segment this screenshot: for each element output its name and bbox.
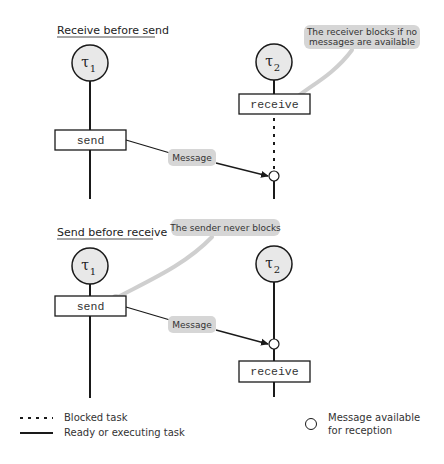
scenario-receive-before-send: Receive before send The receiver blocks … <box>55 24 420 199</box>
task2-index: 2 <box>274 62 280 73</box>
legend: Blocked task Ready or executing task Mes… <box>20 412 420 438</box>
legend-blocked-label: Blocked task <box>64 412 128 423</box>
legend-message-available-icon <box>306 419 317 430</box>
task2-symbol: τ <box>265 255 273 271</box>
task1-symbol: τ <box>81 257 89 273</box>
scenario-title: Send before receive <box>57 226 168 239</box>
legend-ready-label: Ready or executing task <box>64 427 185 438</box>
task2-receive-label: receive <box>250 365 298 378</box>
message-passing-diagram: Receive before send The receiver blocks … <box>0 0 444 464</box>
task1-index: 1 <box>90 266 96 277</box>
callout-text-line1: The receiver blocks if no <box>306 27 418 37</box>
task1-symbol: τ <box>81 54 89 70</box>
message-available-marker <box>269 171 279 181</box>
scenario-title: Receive before send <box>57 24 169 37</box>
diagram-canvas: Receive before send The receiver blocks … <box>0 0 444 464</box>
message-label: Message <box>172 153 212 163</box>
callout-text-line2: messages are available <box>309 37 415 47</box>
legend-message-available-line2: for reception <box>328 425 392 436</box>
task2-symbol: τ <box>265 53 273 69</box>
scenario-send-before-receive: Send before receive The sender never blo… <box>55 219 310 398</box>
message-arrow-start <box>126 140 170 153</box>
legend-message-available-line1: Message available <box>328 412 420 423</box>
message-arrow <box>216 330 268 344</box>
task1-index: 1 <box>90 63 96 74</box>
message-available-marker <box>269 339 279 349</box>
task1-send-label: send <box>77 300 105 313</box>
task1-send-label: send <box>77 134 105 147</box>
message-label: Message <box>172 320 212 330</box>
callout-text-line1: The sender never blocks <box>169 223 281 233</box>
message-arrow-start <box>126 307 170 320</box>
callout-leader <box>116 237 212 298</box>
task2-index: 2 <box>274 264 280 275</box>
task2-receive-label: receive <box>250 98 298 111</box>
message-arrow <box>216 163 268 176</box>
